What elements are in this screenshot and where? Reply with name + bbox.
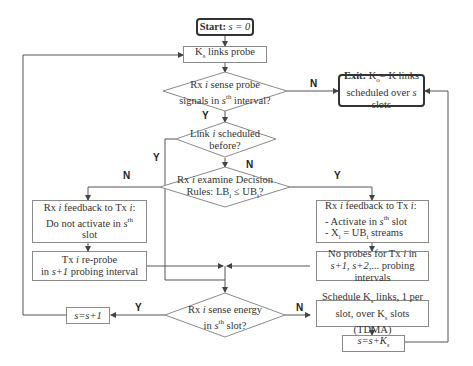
edge-label-scheduled-yes: Y xyxy=(153,152,160,163)
edge-label-energy-no: N xyxy=(296,302,303,313)
no-probes-node: No probes for Tx i in s+1, s+2,... probi… xyxy=(316,251,429,281)
feedback-yes-node: Rx i feedback to Tx i: - Activate in sth… xyxy=(316,200,429,243)
edge-label-sense-probe-yes: Y xyxy=(202,110,209,121)
edge-label-rules-yes: Y xyxy=(334,170,341,181)
sense-probe-text: Rx i sense probesignals in sth interval? xyxy=(168,79,282,107)
exit-label: Exit: xyxy=(344,70,366,81)
schedule-tdma-node: Schedule Ks links, 1 per slot, over Ks s… xyxy=(316,300,429,327)
increment-ks-node: s=s+Ks xyxy=(342,335,405,352)
edge-label-scheduled-no: N xyxy=(246,159,253,170)
edge-label-rules-no: N xyxy=(123,170,130,181)
start-node: Start: s = 0 xyxy=(196,18,254,36)
edge-label-sense-probe-no: N xyxy=(310,78,317,89)
start-value: s = 0 xyxy=(226,21,250,32)
feedback-no-node: Rx i feedback to Tx i: Do not activate i… xyxy=(32,200,147,243)
exit-node: Exit: Ko= K links scheduled over s slots xyxy=(338,74,425,107)
increment-text: s=s+1 xyxy=(74,310,102,322)
sense-energy-text: Rx i sense energyin sth slot? xyxy=(175,304,275,332)
decision-rules-text: Rx i examine DecisionRules: LBi ≤ UBi? xyxy=(166,174,284,202)
reprobe-node: Tx i re-probe in s+1 probing interval xyxy=(32,251,147,281)
edge-label-energy-yes: Y xyxy=(135,302,142,313)
probe-node: Ks links probe xyxy=(183,46,267,63)
scheduled-before-text: Link i scheduledbefore? xyxy=(180,128,270,152)
increment-node: s=s+1 xyxy=(66,307,110,324)
start-label: Start: xyxy=(200,21,226,32)
